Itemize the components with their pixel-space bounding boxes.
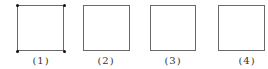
square-1 — [17, 5, 64, 51]
square-3 — [150, 5, 196, 51]
corner-point-bottom-left — [16, 50, 19, 53]
corner-point-bottom-right — [63, 50, 66, 53]
square-4 — [218, 5, 265, 51]
square-2 — [83, 5, 130, 51]
figure-label-4: (4) — [238, 55, 255, 66]
figure-label-2: (2) — [97, 55, 114, 66]
corner-point-top-right — [63, 4, 66, 7]
corner-point-top-left — [16, 4, 19, 7]
figure-label-3: (3) — [164, 55, 181, 66]
figure-label-1: (1) — [32, 55, 49, 66]
